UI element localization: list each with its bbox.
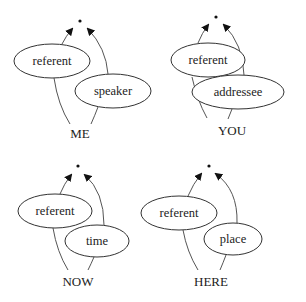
node-label: place: [220, 232, 247, 246]
panel-here: referent place HERE: [141, 164, 262, 289]
edge-me-to-speaker: [91, 107, 98, 124]
edge-here-to-referent: [183, 230, 198, 270]
edge-referent-to-root: [60, 175, 71, 194]
panel-label: ME: [70, 126, 90, 141]
node-referent: referent: [18, 194, 92, 228]
panel-me: referent speaker ME: [14, 19, 151, 141]
edge-me-to-referent: [54, 78, 70, 124]
node-time: time: [65, 225, 129, 257]
node-label: addressee: [214, 85, 263, 99]
node-speaker: speaker: [75, 74, 151, 108]
node-label: referent: [189, 53, 228, 67]
panel-label: NOW: [62, 274, 94, 289]
node-addressee: addressee: [192, 75, 284, 109]
root-dot: [76, 164, 79, 167]
node-referent: referent: [171, 43, 245, 77]
edge-speaker-to-root: [88, 29, 108, 74]
deixis-diagram: referent speaker ME referent addressee Y…: [0, 0, 306, 302]
node-referent: referent: [141, 196, 217, 230]
panel-label: YOU: [218, 123, 247, 138]
root-dot: [214, 15, 217, 18]
node-label: referent: [33, 54, 72, 68]
edge-now-to-time: [88, 257, 94, 270]
edge-referent-to-root: [62, 29, 72, 44]
edge-you-to-addressee: [228, 109, 232, 119]
edge-place-to-root: [216, 174, 237, 223]
panel-now: referent time NOW: [18, 164, 129, 289]
root-dot: [78, 19, 81, 22]
node-label: speaker: [94, 84, 133, 98]
root-dot: [207, 164, 210, 167]
node-label: time: [86, 234, 109, 248]
node-place: place: [204, 223, 262, 255]
panel-you: referent addressee YOU: [171, 15, 284, 138]
node-label: referent: [160, 206, 199, 220]
edge-here-to-place: [220, 255, 226, 270]
edge-referent-to-root: [188, 174, 201, 196]
panel-label: HERE: [194, 274, 228, 289]
node-label: referent: [36, 204, 75, 218]
edge-now-to-referent: [53, 228, 68, 270]
edge-referent-to-root: [198, 25, 208, 43]
node-referent: referent: [14, 44, 90, 78]
